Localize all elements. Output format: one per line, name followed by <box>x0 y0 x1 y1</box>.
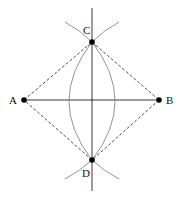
label-d: D <box>82 167 90 179</box>
points <box>21 39 162 163</box>
label-c: C <box>83 24 90 36</box>
point-a <box>21 97 27 103</box>
dashed-rhombus <box>24 42 159 160</box>
point-c <box>89 39 95 45</box>
point-b <box>156 97 162 103</box>
construction-diagram: A B C D <box>0 0 183 198</box>
arc-right <box>92 42 115 160</box>
label-b: B <box>166 94 173 106</box>
label-a: A <box>9 94 17 106</box>
point-d <box>89 157 95 163</box>
